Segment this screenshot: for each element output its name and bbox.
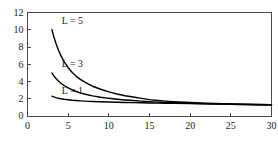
line-chart: 024681012 051015202530 L = 5L = 3L = 1 xyxy=(0,0,278,142)
x-tick-label: 5 xyxy=(66,120,71,131)
series-labels: L = 5L = 3L = 1 xyxy=(62,15,83,96)
series-label: L = 1 xyxy=(62,85,83,96)
x-tick-label: 25 xyxy=(226,120,236,131)
x-tick-label: 30 xyxy=(267,120,277,131)
x-tick-label: 15 xyxy=(145,120,155,131)
series-label: L = 3 xyxy=(62,58,83,69)
y-tick-label: 0 xyxy=(19,110,24,121)
x-tick-label: 10 xyxy=(104,120,114,131)
y-tick-label: 2 xyxy=(19,93,24,104)
y-axis-ticks xyxy=(28,13,32,117)
chart-figure: 024681012 051015202530 L = 5L = 3L = 1 xyxy=(0,0,278,142)
x-tick-label: 0 xyxy=(25,120,30,131)
y-tick-label: 4 xyxy=(19,76,24,87)
x-tick-labels: 051015202530 xyxy=(25,120,277,131)
x-axis-ticks xyxy=(28,113,272,117)
y-tick-label: 10 xyxy=(14,24,24,35)
y-tick-label: 8 xyxy=(19,41,24,52)
y-tick-label: 6 xyxy=(19,59,24,70)
series-label: L = 5 xyxy=(62,15,83,26)
x-tick-label: 20 xyxy=(185,120,195,131)
y-tick-label: 12 xyxy=(14,7,24,18)
y-tick-labels: 024681012 xyxy=(14,7,24,122)
data-curves xyxy=(52,30,272,105)
